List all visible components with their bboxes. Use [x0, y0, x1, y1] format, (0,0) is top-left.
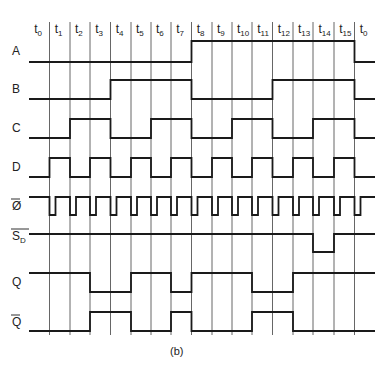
waveform-SD-bar — [29, 234, 375, 252]
signal-label-A: A — [12, 44, 20, 58]
signal-label-clock-bar: Ø — [12, 199, 21, 213]
time-label: t8 — [197, 22, 205, 38]
time-label: t14 — [319, 22, 332, 38]
signal-label-Q: Q — [12, 275, 21, 289]
time-label: t11 — [257, 22, 269, 38]
signal-labels: ABCDØSDQQ — [11, 44, 29, 329]
time-label: t0 — [34, 22, 42, 38]
waveform-Q-bar — [29, 312, 375, 331]
time-grid-lines — [50, 22, 355, 335]
time-label: t1 — [55, 22, 63, 38]
waveform-clock-bar — [29, 197, 375, 215]
time-label: t5 — [136, 22, 144, 38]
time-label: t9 — [217, 22, 225, 38]
signal-label-Q-bar: Q — [12, 315, 21, 329]
time-label: t6 — [156, 22, 164, 38]
waveform-Q — [29, 273, 375, 292]
signal-label-SD-bar: SD — [12, 229, 26, 245]
signal-label-D: D — [12, 160, 21, 174]
waveform-A — [29, 41, 375, 62]
time-label: t15 — [339, 22, 352, 38]
time-labels: t0t1t2t3t4t5t6t7t8t9t10t11t12t13t14t15t0 — [34, 22, 368, 38]
time-label: t12 — [278, 22, 291, 38]
time-label: t4 — [116, 22, 124, 38]
time-label: t7 — [176, 22, 184, 38]
time-label: t3 — [95, 22, 103, 38]
signal-label-C: C — [12, 121, 21, 135]
figure-caption: (b) — [170, 345, 183, 357]
waveform-D — [29, 158, 375, 177]
time-label: t2 — [75, 22, 83, 38]
time-label: t0 — [360, 22, 368, 38]
signal-label-B: B — [12, 82, 20, 96]
waveforms — [29, 41, 375, 331]
timing-diagram: t0t1t2t3t4t5t6t7t8t9t10t11t12t13t14t15t0… — [0, 0, 389, 378]
waveform-B — [29, 80, 375, 99]
time-label: t10 — [237, 22, 250, 38]
waveform-C — [29, 119, 375, 138]
time-label: t13 — [298, 22, 311, 38]
